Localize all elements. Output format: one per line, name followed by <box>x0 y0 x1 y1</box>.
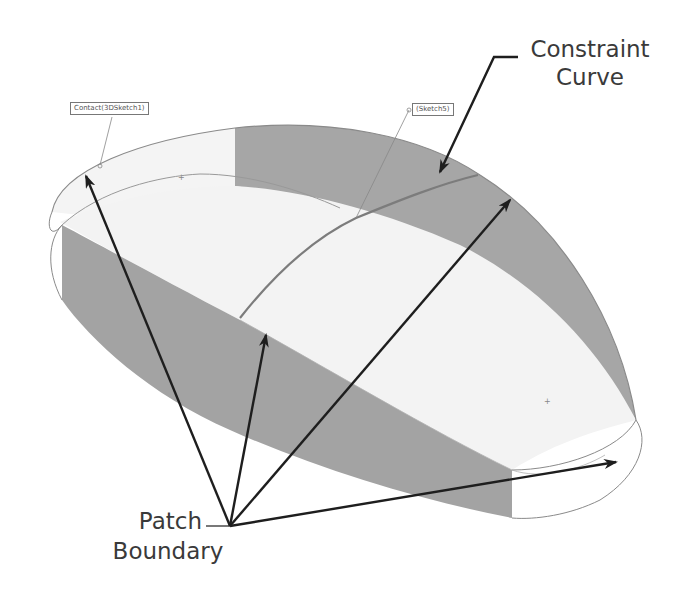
left-loop-curve <box>49 212 62 300</box>
contact-tag: Contact(3DSketch1) <box>70 102 149 115</box>
patch-boundary-label-line1-wrap: Patch <box>112 508 202 536</box>
svg-text:+: + <box>544 397 551 406</box>
constraint-curve-label: Constraint Curve <box>526 36 654 91</box>
patch-boundary-label-line2-wrap: Boundary <box>108 538 228 566</box>
patch-boundary-label-line1: Patch <box>112 508 202 536</box>
sketch-tag: (Sketch5) <box>412 103 454 116</box>
contact-tag-leader <box>100 117 112 165</box>
constraint-curve-label-line1: Constraint <box>526 36 654 64</box>
patch-boundary-label-line2: Boundary <box>108 538 228 566</box>
svg-text:+: + <box>178 173 185 182</box>
constraint-curve-label-line2: Curve <box>526 64 654 92</box>
